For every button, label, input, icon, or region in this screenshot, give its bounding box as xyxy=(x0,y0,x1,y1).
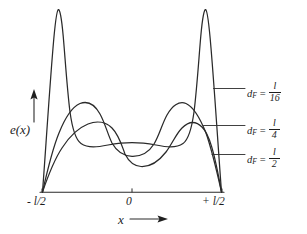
y-axis xyxy=(30,89,37,122)
curve-annotation-fraction-1: l 4 xyxy=(269,118,280,140)
curve-annotation-numerator-1: l xyxy=(272,118,277,129)
curve-annotation-subscript-2: F xyxy=(252,157,257,166)
curve-annotation-subscript-0: F xyxy=(252,91,257,100)
x-axis-direction-arrow xyxy=(130,215,168,222)
curve-annotation-equals-1: = xyxy=(260,125,266,136)
curve-annotation-equals-0: = xyxy=(260,88,266,99)
plot-canvas xyxy=(0,0,307,234)
y-axis-label: e(x) xyxy=(10,123,30,136)
x-axis xyxy=(40,188,224,192)
curve-annotation-denominator-1: 4 xyxy=(271,130,278,141)
curve-annotation-df-l-over-2: dF = l 2 xyxy=(247,148,280,170)
x-axis-label: x xyxy=(118,213,124,226)
curve-annotation-df-l-over-16: dF = l 16 xyxy=(247,82,281,104)
curve-annotation-subscript-1: F xyxy=(252,128,257,137)
x-tick-label-center: 0 xyxy=(126,196,132,208)
curve-annotation-equals-2: = xyxy=(260,154,266,165)
curve-annotation-numerator-2: l xyxy=(272,147,277,158)
curve-annotation-df-l-over-4: dF = l 4 xyxy=(247,119,280,141)
curve-annotation-fraction-2: l 2 xyxy=(269,147,280,169)
curve-annotation-numerator-0: l xyxy=(272,81,277,92)
curve-annotation-fraction-0: l 16 xyxy=(269,81,281,103)
curve-df-l-over-4 xyxy=(43,103,222,192)
curve-annotation-denominator-2: 2 xyxy=(271,159,278,170)
curve-df-l-over-16 xyxy=(43,10,222,192)
curve-annotation-denominator-0: 16 xyxy=(269,93,281,104)
figure-root: e(x) x - l/2 0 + l/2 dF = l 16 dF = l 4 … xyxy=(0,0,307,234)
curve-df-l-over-2 xyxy=(43,122,222,192)
x-tick-label-left: - l/2 xyxy=(27,196,46,208)
x-tick-label-right: + l/2 xyxy=(202,196,225,208)
